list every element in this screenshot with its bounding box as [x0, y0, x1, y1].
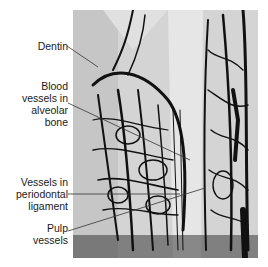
- label-line: Vessels in: [16, 176, 68, 188]
- label-line: alveolar: [22, 104, 68, 116]
- label-alveolar-bone-vessels: Blood vessels in alveolar bone: [22, 80, 68, 128]
- label-dentin: Dentin: [38, 40, 68, 52]
- label-line: Blood: [22, 80, 68, 92]
- label-dentin-text: Dentin: [38, 40, 68, 52]
- label-line: bone: [22, 116, 68, 128]
- label-line: vessels: [33, 234, 68, 246]
- label-line: periodontal: [16, 188, 68, 200]
- micrograph-image: [73, 10, 258, 258]
- label-line: ligament: [16, 200, 68, 212]
- label-line: vessels in: [22, 92, 68, 104]
- vascular-micrograph: [73, 10, 258, 258]
- label-periodontal-ligament-vessels: Vessels in periodontal ligament: [16, 176, 68, 212]
- label-line: Pulp: [33, 222, 68, 234]
- label-pulp-vessels: Pulp vessels: [33, 222, 68, 246]
